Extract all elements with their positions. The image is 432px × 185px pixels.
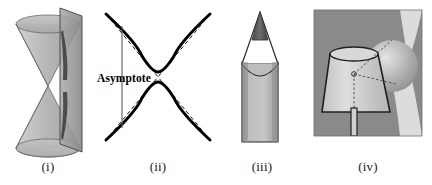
panel-pencil: (iii) — [220, 0, 304, 185]
pencil-illustration — [220, 0, 304, 155]
pencil-right-shadow — [272, 62, 278, 142]
pencil-left-shadow — [242, 62, 248, 142]
lamp-illustration — [304, 0, 432, 155]
lamp-stem — [351, 108, 357, 136]
lamp-shade — [322, 54, 390, 112]
cone-and-plane-illustration — [0, 0, 96, 160]
panel-cone: (i) — [0, 0, 96, 185]
caption-iii: (iii) — [220, 159, 304, 175]
hyperbola-figure: (i) Asymptote (ii) — [0, 0, 432, 185]
pencil-graphite-tip — [252, 12, 268, 40]
asymptote-label: Asymptote — [97, 72, 151, 84]
caption-iv: (iv) — [304, 159, 432, 175]
caption-i: (i) — [0, 159, 96, 175]
caption-ii: (ii) — [96, 159, 220, 175]
panel-lamp: (iv) — [304, 0, 432, 185]
panel-hyperbola: Asymptote (ii) — [96, 0, 220, 185]
